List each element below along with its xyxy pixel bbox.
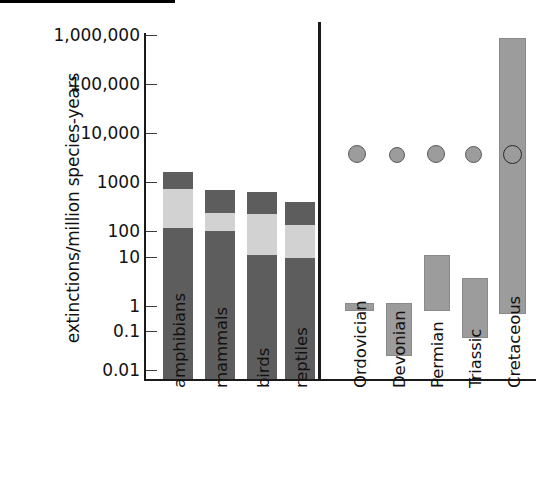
bar-segment-upper (285, 202, 315, 225)
x-label-birds: birds (254, 348, 273, 388)
marker-dot-permian (427, 145, 445, 163)
bar-segment-upper (205, 190, 235, 213)
bar-segment-middle (285, 225, 315, 258)
bar-segment-upper (247, 192, 277, 214)
bar-segment-upper (163, 172, 193, 189)
bar-segment-middle (163, 189, 193, 228)
x-label-cretaceous: Cretaceous (505, 296, 524, 388)
extinction-rate-chart: extinctions/million species-years 1,000,… (0, 0, 538, 501)
plot-area (0, 0, 538, 400)
marker-dot-devonian (389, 147, 405, 163)
marker-dot-cretaceous (503, 145, 522, 164)
x-label-ordovician: Ordovician (351, 300, 370, 388)
range-box-permian (424, 255, 450, 311)
x-label-reptiles: reptiles (292, 327, 311, 388)
x-label-amphibians: amphibians (170, 293, 189, 388)
bar-segment-middle (205, 213, 235, 231)
range-box-cretaceous (499, 38, 526, 314)
x-label-devonian: Devonian (390, 310, 409, 388)
marker-dot-triassic (465, 146, 482, 163)
x-label-mammals: mammals (212, 307, 231, 388)
background-extinction-rate-line (0, 0, 175, 3)
marker-dot-ordovician (348, 145, 366, 163)
bar-segment-middle (247, 214, 277, 255)
x-label-triassic: Triassic (466, 329, 485, 388)
x-label-permian: Permian (428, 321, 447, 388)
